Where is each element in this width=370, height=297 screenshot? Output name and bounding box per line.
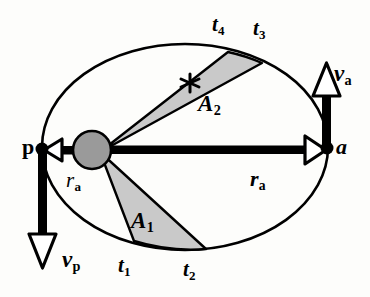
aphelion-point-dot [321,142,334,155]
radius-vector-aphelion [100,136,326,164]
arrowhead-down-icon [29,234,56,268]
central-star-body [73,131,111,169]
label-time-3-subscript: 3 [259,27,266,42]
velocity-vector-perihelion [29,148,56,268]
label-velocity-perihelion: vp [62,248,80,274]
label-area-1: A1 [131,209,154,235]
label-radius-left-symbol: r [66,168,74,192]
label-time-2: t2 [183,259,196,282]
label-velocity-aphelion-subscript: a [345,72,352,88]
label-area-2-symbol: A [198,91,213,116]
label-time-3-symbol: t [253,16,259,40]
label-velocity-aphelion: va [334,62,352,88]
label-area-2-subscript: 2 [214,102,221,118]
label-time-2-subscript: 2 [189,268,196,283]
perihelion-point-dot [36,143,49,156]
label-velocity-aphelion-symbol: v [334,61,344,86]
label-velocity-perihelion-subscript: p [73,258,81,274]
swept-area-sector-a2 [100,52,262,152]
label-velocity-perihelion-symbol: v [62,247,72,272]
label-time-1-symbol: t [118,253,124,277]
orbital-diagram-figure: p a ra ra vp va t1 t2 t3 t4 A1 A2 [0,0,370,297]
label-radius-right: ra [250,168,266,193]
label-aphelion: a [336,136,347,158]
label-radius-left: ra [66,170,81,193]
label-radius-right-subscript: a [259,178,266,193]
label-time-1: t1 [118,255,131,278]
label-time-2-symbol: t [183,257,189,281]
orbit-diagram-canvas [0,0,370,297]
label-time-4-symbol: t [212,12,218,36]
label-area-2: A2 [198,92,221,118]
label-time-4-subscript: 4 [218,23,225,38]
label-perihelion: p [22,136,34,158]
label-area-1-subscript: 1 [147,219,154,235]
label-time-3: t3 [253,18,266,41]
label-radius-right-symbol: r [250,166,259,191]
label-time-1-subscript: 1 [124,264,131,279]
label-area-1-symbol: A [131,208,146,233]
label-time-4: t4 [212,14,225,37]
label-radius-left-subscript: a [74,179,81,194]
